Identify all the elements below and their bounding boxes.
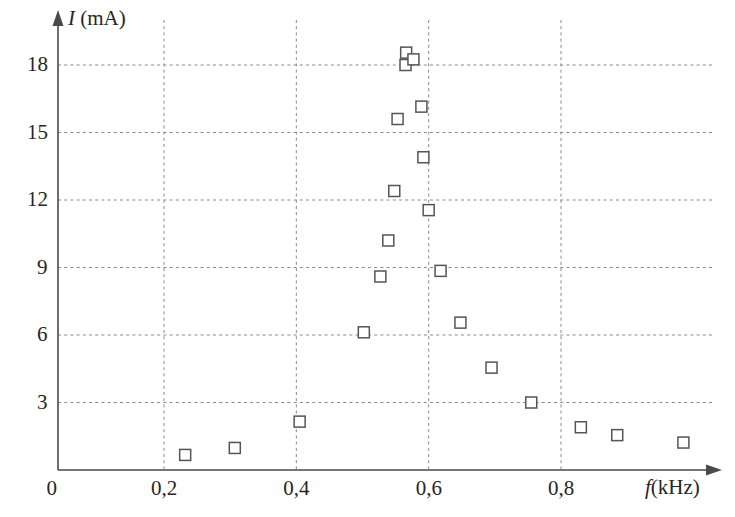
x-axis-label: f(kHz) bbox=[645, 477, 700, 498]
data-point-marker bbox=[358, 327, 369, 338]
data-point-marker bbox=[229, 442, 240, 453]
data-markers bbox=[180, 47, 689, 460]
x-tick-label-0,6: 0,6 bbox=[416, 478, 442, 499]
y-tick-label-6: 6 bbox=[37, 324, 48, 345]
y-axis-label-symbol: I bbox=[68, 6, 75, 30]
data-point-marker bbox=[408, 54, 419, 65]
x-tick-label-0,4: 0,4 bbox=[283, 478, 309, 499]
x-tick-label-0,8: 0,8 bbox=[548, 478, 574, 499]
data-point-marker bbox=[575, 422, 586, 433]
y-axis-arrowhead bbox=[53, 10, 64, 26]
x-tick-label-0,2: 0,2 bbox=[151, 478, 177, 499]
y-tick-label-18: 18 bbox=[27, 54, 48, 75]
data-point-marker bbox=[416, 101, 427, 112]
data-point-marker bbox=[486, 362, 497, 373]
plot-canvas bbox=[0, 0, 735, 517]
y-tick-label-3: 3 bbox=[37, 392, 48, 413]
y-tick-label-12: 12 bbox=[27, 189, 48, 210]
data-point-marker bbox=[180, 449, 191, 460]
data-point-marker bbox=[383, 235, 394, 246]
data-point-marker bbox=[455, 317, 466, 328]
data-point-marker bbox=[389, 186, 400, 197]
x-axis-arrowhead bbox=[706, 465, 722, 476]
data-point-marker bbox=[423, 205, 434, 216]
data-point-marker bbox=[418, 152, 429, 163]
data-point-marker bbox=[294, 416, 305, 427]
data-point-marker bbox=[392, 114, 403, 125]
data-point-marker bbox=[375, 271, 386, 282]
data-point-marker bbox=[612, 430, 623, 441]
origin-tick-label: 0 bbox=[47, 478, 58, 499]
y-axis-label: I (mA) bbox=[68, 8, 126, 29]
data-point-marker bbox=[435, 265, 446, 276]
data-point-marker bbox=[678, 437, 689, 448]
y-axis-label-unit: (mA) bbox=[80, 6, 126, 30]
y-tick-label-15: 15 bbox=[27, 122, 48, 143]
resonance-curve-figure: 3691215180,20,40,60,80 I (mA) f(kHz) bbox=[0, 0, 735, 517]
x-axis-label-unit: (kHz) bbox=[651, 475, 700, 499]
y-tick-label-9: 9 bbox=[37, 257, 48, 278]
data-point-marker bbox=[526, 397, 537, 408]
